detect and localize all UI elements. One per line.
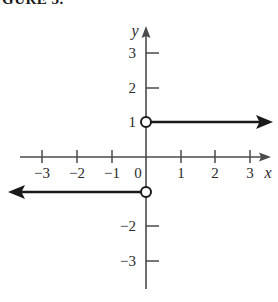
figure-caption-clipped: GURE 3. — [0, 0, 86, 9]
y-tick-label-1: 1 — [129, 114, 137, 130]
y-tick-label-2: 2 — [129, 80, 137, 96]
x-tick-label-1: 1 — [177, 165, 185, 181]
open-circle-0-neg1 — [141, 187, 151, 197]
x-tick-label-2: 2 — [211, 165, 219, 181]
function-branch-right — [141, 115, 273, 129]
figure-caption-text: GURE 3. — [2, 0, 64, 8]
coordinate-plane-graph: −3 −2 −1 0 1 2 3 3 2 1 −2 −3 x y — [0, 0, 278, 302]
x-tick-labels: −3 −2 −1 0 1 2 3 — [34, 165, 254, 181]
y-axis-label: y — [129, 22, 139, 40]
figure-container: GURE 3. — [0, 0, 278, 302]
open-circle-0-1 — [141, 117, 151, 127]
x-tick-label-3: 3 — [246, 165, 254, 181]
y-tick-label--3: −3 — [120, 253, 136, 269]
y-tick-label-3: 3 — [129, 45, 137, 61]
y-tick-label--2: −2 — [120, 218, 136, 234]
x-tick-label-0: 0 — [134, 165, 142, 181]
x-axis-label: x — [263, 164, 271, 181]
function-branch-left — [8, 185, 151, 199]
x-tick-label--2: −2 — [69, 165, 85, 181]
x-tick-label--3: −3 — [34, 165, 50, 181]
x-tick-label--1: −1 — [104, 165, 120, 181]
